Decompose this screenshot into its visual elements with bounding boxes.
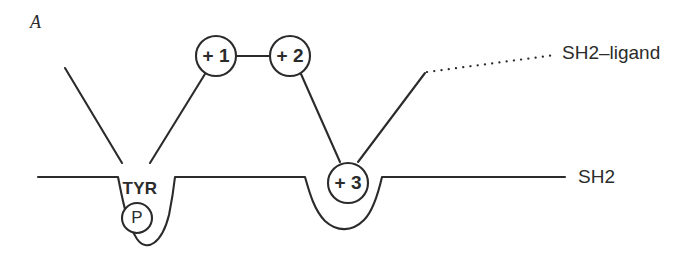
ligand-backbone-right-tail bbox=[358, 73, 425, 162]
phosphate-label: P bbox=[131, 208, 142, 227]
figure-root: + 1 + 2 + 3 P TYR SH2–ligand SH2 A bbox=[0, 0, 682, 271]
residue-node-plus2: + 2 bbox=[270, 36, 310, 76]
sh2-ligand-leader-line bbox=[427, 55, 555, 72]
sh2-ligand-label: SH2–ligand bbox=[562, 42, 660, 63]
residue-label-plus3: + 3 bbox=[335, 172, 362, 193]
ligand-backbone-plus2-to-plus3 bbox=[301, 74, 340, 162]
ligand-backbone-left-tail bbox=[65, 68, 122, 163]
tyr-residue-label: TYR bbox=[123, 179, 158, 198]
sh2-domain-label: SH2 bbox=[578, 166, 615, 187]
phosphate-node: P bbox=[122, 203, 152, 233]
residue-label-plus2: + 2 bbox=[277, 45, 304, 66]
residue-node-plus1: + 1 bbox=[196, 36, 236, 76]
sh2-surface-contour bbox=[38, 177, 565, 245]
residue-node-plus3: + 3 bbox=[328, 163, 368, 203]
panel-label-a: A bbox=[29, 12, 42, 32]
ligand-backbone-tyr-to-plus1 bbox=[150, 74, 205, 163]
residue-label-plus1: + 1 bbox=[203, 45, 230, 66]
sh2-binding-diagram: + 1 + 2 + 3 P TYR SH2–ligand SH2 A bbox=[0, 0, 682, 271]
